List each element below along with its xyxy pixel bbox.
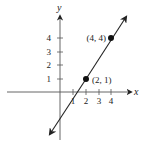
y-tick-label: 3 (47, 47, 52, 57)
point-label: (4, 4) (87, 33, 107, 43)
x-tick-label: 2 (84, 96, 89, 106)
y-tick-label: 2 (47, 60, 52, 70)
x-axis-label: x (133, 86, 139, 97)
data-line (86, 17, 126, 79)
coordinate-plane: x y 1 2 3 4 1 2 3 4 (2, 1) (4, 4) (0, 0, 143, 142)
point-label: (2, 1) (92, 75, 112, 85)
y-axis-label: y (56, 2, 62, 13)
data-point (108, 35, 114, 41)
x-tick-label: 3 (97, 96, 102, 106)
data-point (83, 76, 89, 82)
data-line (50, 79, 86, 134)
y-tick-label: 1 (47, 74, 52, 84)
y-tick-label: 4 (47, 33, 52, 43)
x-tick-label: 4 (109, 96, 114, 106)
